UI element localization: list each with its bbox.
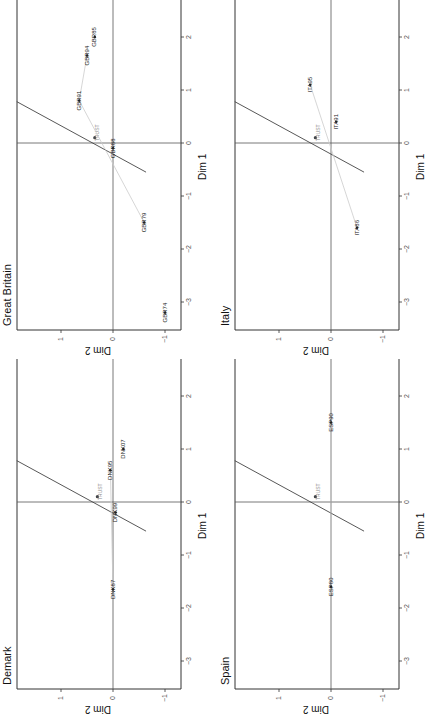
dim2-axis-title: Dim 2 — [85, 704, 112, 715]
biplot-axis-line — [17, 102, 146, 172]
dim2-tick-label: 1 — [275, 696, 282, 700]
data-point-label: GBR88 — [110, 138, 116, 158]
dim1-tick-label: 0 — [185, 500, 192, 504]
chart-svg: −3−2−1012Dim 1−101Dim 2TRUSTGBR74GBR79GB… — [0, 0, 218, 359]
dim1-axis-title: Dim 1 — [415, 153, 426, 180]
dim1-tick-label: −1 — [185, 192, 192, 200]
dim2-tick-label: 0 — [327, 337, 334, 341]
data-point-label: GBR91 — [76, 90, 82, 110]
chart-svg: −3−2−1012Dim 1−101Dim 2TRUSTITA86ITA91IT… — [218, 0, 436, 359]
chart-svg: −3−2−1012Dim 1−101Dim 2TRUSTDNK87DNK99DN… — [0, 359, 218, 718]
dim1-axis-title: Dim 1 — [197, 512, 208, 539]
dim1-tick-label: 2 — [403, 394, 410, 398]
dim2-tick-label: 1 — [275, 337, 282, 341]
dim1-tick-label: −1 — [185, 551, 192, 559]
data-point-label: GBR94 — [84, 45, 90, 65]
panel-italy: Italy −3−2−1012Dim 1−101Dim 2TRUSTITA86I… — [218, 0, 436, 359]
dim2-axis-title: Dim 2 — [85, 345, 112, 356]
biplot-axis-line — [17, 461, 146, 531]
dim1-tick-label: 1 — [185, 447, 192, 451]
dim1-tick-label: −2 — [185, 604, 192, 612]
dim1-tick-label: 2 — [185, 35, 192, 39]
biplot-axis-line — [235, 461, 364, 531]
dim2-axis-title: Dim 2 — [303, 704, 330, 715]
chart-svg: −3−2−1012Dim 1−101Dim 2TRUSTESP80ESP90Sp… — [218, 359, 436, 718]
dim1-tick-label: −3 — [403, 298, 410, 306]
panel-spain: Spain −3−2−1012Dim 1−101Dim 2TRUSTESP80E… — [218, 359, 436, 718]
dim2-tick-label: 1 — [57, 696, 64, 700]
dim1-tick-label: 0 — [185, 141, 192, 145]
dim1-tick-label: 0 — [403, 500, 410, 504]
dim2-tick-label: 0 — [109, 696, 116, 700]
data-point-label: ITA95 — [307, 76, 313, 92]
panel-title-text: Italy — [219, 305, 231, 326]
data-point-label: GBR85 — [91, 27, 97, 47]
dim2-tick-label: −1 — [161, 694, 168, 702]
dim2-tick-label: 1 — [57, 337, 64, 341]
biplot-vector-label: TRUST — [315, 483, 321, 500]
dim1-tick-label: −1 — [403, 192, 410, 200]
data-point-label: GBR79 — [141, 212, 147, 232]
dim2-tick-label: −1 — [161, 335, 168, 343]
dim1-tick-label: −2 — [403, 604, 410, 612]
dim1-tick-label: 2 — [403, 35, 410, 39]
dim1-tick-label: 1 — [185, 88, 192, 92]
dim2-tick-label: −1 — [379, 335, 386, 343]
dim1-tick-label: −1 — [403, 551, 410, 559]
dim1-tick-label: 1 — [403, 447, 410, 451]
dim1-tick-label: 0 — [403, 141, 410, 145]
panel-title-text: Spain — [219, 657, 231, 685]
dim1-tick-label: 1 — [403, 88, 410, 92]
biplot-vector-label: TRUST — [315, 124, 321, 141]
data-point-label: GBR74 — [162, 302, 168, 322]
dim1-tick-label: −3 — [185, 657, 192, 665]
data-point-label: ITA91 — [333, 113, 339, 129]
dim2-tick-label: 0 — [109, 337, 116, 341]
panel-demark: Demark −3−2−1012Dim 1−101Dim 2TRUSTDNK87… — [0, 359, 218, 718]
dim1-tick-label: −3 — [185, 298, 192, 306]
dim2-tick-label: −1 — [379, 694, 386, 702]
biplot-axis-line — [235, 102, 364, 172]
dim2-axis-title: Dim 2 — [303, 345, 330, 356]
data-point-label: ESP90 — [328, 413, 334, 432]
data-point-label: DNK99 — [112, 502, 118, 522]
dim1-axis-title: Dim 1 — [415, 512, 426, 539]
dim1-tick-label: 2 — [185, 394, 192, 398]
dim1-tick-label: −3 — [403, 657, 410, 665]
data-point-label: DNK95 — [107, 460, 113, 480]
panel-title-text: Demark — [1, 646, 13, 685]
dim2-tick-label: 0 — [327, 696, 334, 700]
biplot-vector-label: TRUST — [97, 483, 103, 500]
dim1-tick-label: −2 — [185, 245, 192, 253]
trajectory-line — [310, 85, 357, 228]
data-point-label: ESP80 — [328, 577, 334, 596]
panel-great-britain: Great Britain −3−2−1012Dim 1−101Dim 2TRU… — [0, 0, 218, 359]
data-point-label: DNK87 — [110, 579, 116, 599]
trajectory-line — [79, 101, 144, 223]
panel-title-text: Great Britain — [1, 264, 13, 326]
data-point-label: DNK07 — [120, 439, 126, 459]
data-point-label: ITA86 — [354, 219, 360, 235]
dim1-axis-title: Dim 1 — [197, 153, 208, 180]
dim1-tick-label: −2 — [403, 245, 410, 253]
